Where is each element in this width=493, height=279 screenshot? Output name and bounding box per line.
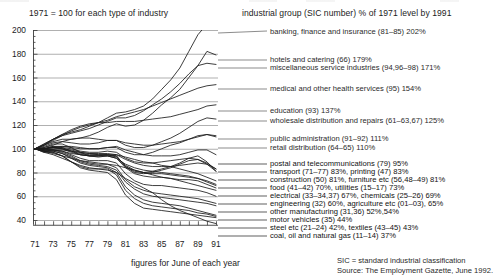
series-line [35,135,216,155]
y-tick-180: 180 [2,49,26,59]
y-tick-200: 200 [2,25,26,35]
x-tick-89: 89 [190,239,206,249]
y-tick-40: 40 [2,215,26,225]
y-tick-80: 80 [2,168,26,178]
chart-subtitle-left: 1971 = 100 for each type of industry [29,8,168,18]
x-tick-79: 79 [99,239,115,249]
x-tick-81: 81 [118,239,134,249]
x-tick-85: 85 [154,239,170,249]
y-tick-160: 160 [2,73,26,83]
chart-subtitle-right: industrial group (SIC number) % of 1971 … [242,8,452,18]
series-line [35,30,216,149]
chart-svg [33,30,218,228]
legend-item-6: public administration (91–92) 111% [270,135,389,143]
legend-item-0: banking, finance and insurance (81–85) 2… [270,28,426,36]
cropped-top-edge [0,0,478,2]
x-tick-71: 71 [27,239,43,249]
series-line [35,149,216,191]
x-tick-91: 91 [208,239,224,249]
y-tick-60: 60 [2,191,26,201]
x-axis-caption: figures for June of each year [131,258,240,268]
legend-item-17: coal, oil and natural gas (11–14) 37% [270,232,396,240]
legend-item-7: retail distribution (64–65) 110% [270,144,375,152]
sic-note: SIC = standard industrial classification [337,256,493,266]
x-tick-77: 77 [81,239,97,249]
x-tick-87: 87 [172,239,188,249]
series-line [35,149,216,217]
x-tick-75: 75 [63,239,79,249]
footnotes: SIC = standard industrial classification… [337,256,493,276]
y-tick-100: 100 [2,144,26,154]
legend-item-5: wholesale distribution and repairs (61–6… [270,117,444,125]
series-line [35,105,216,149]
x-tick-83: 83 [136,239,152,249]
leader-line-0 [218,31,267,33]
y-tick-140: 140 [2,96,26,106]
legend-item-2: miscellaneous service industries (94,96–… [270,64,440,72]
source-note: Source: The Employment Gazette, June 199… [337,266,493,276]
y-tick-120: 120 [2,120,26,130]
legend-item-4: education (93) 137% [270,107,340,115]
x-tick-73: 73 [45,239,61,249]
series-line [35,146,216,173]
legend-item-3: medical and other health services (95) 1… [270,85,421,93]
line-chart-plot-area [33,30,218,228]
